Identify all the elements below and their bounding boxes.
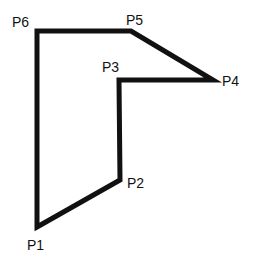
polygon-outline xyxy=(37,31,213,227)
vertex-label-p1: P1 xyxy=(27,237,44,253)
vertex-label-p2: P2 xyxy=(127,175,144,191)
vertex-label-p5: P5 xyxy=(126,12,143,28)
vertex-label-p6: P6 xyxy=(12,14,29,30)
polygon-diagram: P1 P2 P3 P4 P5 P6 xyxy=(0,0,254,258)
vertex-labels: P1 P2 P3 P4 P5 P6 xyxy=(12,12,239,253)
vertex-label-p4: P4 xyxy=(222,73,239,89)
vertex-label-p3: P3 xyxy=(102,59,119,75)
